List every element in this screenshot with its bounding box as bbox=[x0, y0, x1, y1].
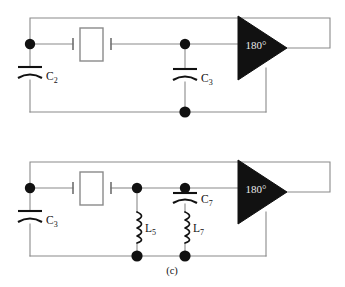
capacitor-c3-icon-upper bbox=[173, 69, 197, 80]
c3-plate-bottom-lower bbox=[18, 219, 42, 223]
crystal-body bbox=[80, 28, 103, 61]
capacitor-c3-icon-lower bbox=[18, 211, 42, 222]
upper-circuit: C2 C3 180° bbox=[18, 16, 330, 118]
crystal-body bbox=[80, 172, 103, 205]
l5-coil bbox=[137, 212, 142, 243]
c7-plate-bottom bbox=[173, 200, 197, 204]
inductor-l5-icon bbox=[137, 212, 142, 243]
l7-coil bbox=[185, 212, 190, 243]
amplifier-phase-label-lower: 180° bbox=[246, 183, 267, 195]
node-dot bbox=[179, 250, 190, 261]
c2-plate-bottom bbox=[18, 75, 42, 79]
node-dot bbox=[25, 39, 35, 49]
inductor-l5-label: L5 bbox=[145, 222, 156, 237]
amplifier-phase-label-upper: 180° bbox=[246, 39, 267, 51]
inductor-l7-icon bbox=[185, 212, 190, 243]
capacitor-c7-label: C7 bbox=[201, 193, 213, 208]
capacitor-c3-label-lower: C3 bbox=[46, 214, 58, 229]
figure-caption: (c) bbox=[166, 265, 178, 277]
node-dot bbox=[131, 250, 142, 261]
capacitor-c2-icon bbox=[18, 67, 42, 78]
capacitor-c3-label-upper: C3 bbox=[201, 72, 213, 87]
node-dot bbox=[25, 183, 35, 193]
inverting-amplifier-upper: 180° bbox=[238, 16, 287, 80]
node-dot bbox=[180, 183, 190, 193]
inductor-l7-label: L7 bbox=[193, 222, 204, 237]
capacitor-c2-label: C2 bbox=[46, 70, 58, 85]
inverting-amplifier-lower: 180° bbox=[238, 160, 287, 224]
node-dot bbox=[180, 39, 190, 49]
node-dot bbox=[179, 106, 190, 117]
c3-plate-bottom-upper bbox=[173, 77, 197, 81]
quartz-crystal-icon bbox=[73, 172, 111, 205]
node-dot bbox=[132, 183, 142, 193]
lower-circuit: C3 C7 L5 L7 180° bbox=[18, 160, 330, 262]
capacitor-c7-icon bbox=[173, 193, 197, 203]
quartz-crystal-icon bbox=[73, 28, 111, 61]
circuit-figure: C2 C3 180° bbox=[0, 0, 345, 287]
